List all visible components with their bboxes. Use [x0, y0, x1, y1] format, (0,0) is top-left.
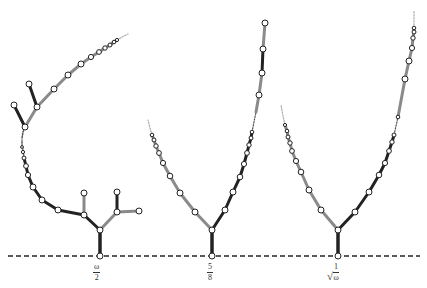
tree-2-nodes: [150, 20, 268, 259]
fraction: 5 8: [207, 263, 213, 282]
tree-3-label: √ 1 ω: [327, 263, 339, 282]
diagram-canvas: [0, 0, 427, 288]
denominator: ω: [333, 273, 338, 282]
numerator: 5: [207, 263, 213, 273]
numerator: 1: [333, 263, 339, 273]
denominator: 8: [208, 273, 212, 282]
numerator: ω: [93, 263, 100, 273]
tree-3-nodes: [283, 26, 416, 259]
tree-2: [148, 23, 265, 256]
tree-2-label: 5 8: [207, 263, 213, 282]
denominator: 2: [95, 273, 99, 282]
tree-1-label: ω 2: [93, 263, 100, 282]
fraction: 1 ω: [333, 263, 339, 282]
tree-1: [14, 34, 139, 256]
sqrt-expression: √ 1 ω: [327, 263, 339, 282]
tree-1-nodes: [11, 38, 142, 259]
fraction: ω 2: [93, 263, 100, 282]
